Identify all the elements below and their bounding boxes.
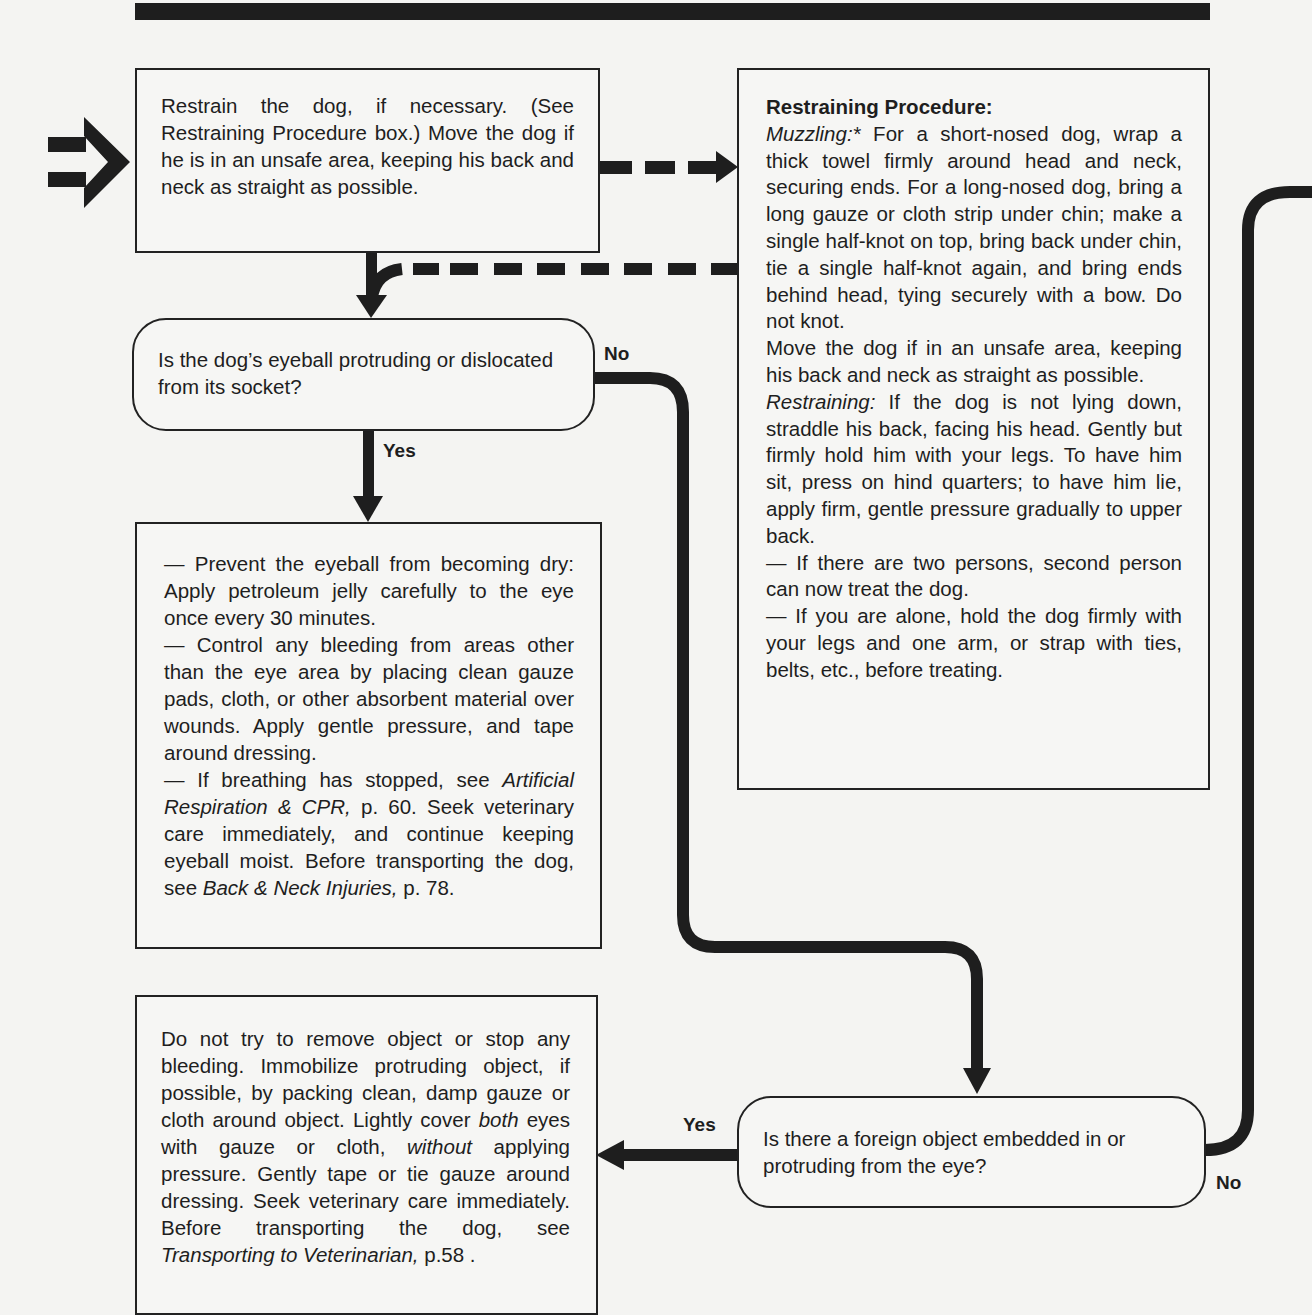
treatment-item-2: — Control any bleeding from areas other … — [164, 631, 574, 766]
restrain-step-box: Restrain the dog, if necessary. (See Res… — [135, 68, 600, 253]
muzzling-label: Muzzling:* — [766, 122, 861, 145]
transporting-reference: Transporting to Veterinarian, — [161, 1243, 419, 1266]
eyeball-yes-label: Yes — [383, 440, 416, 462]
dashed-return-from-procedure — [372, 263, 739, 298]
two-persons-text: — If there are two persons, second perso… — [766, 550, 1182, 604]
object-treatment-text: Do not try to remove object or stop any … — [161, 1025, 570, 1268]
muzzling-text: For a short-nosed dog, wrap a thick towe… — [766, 122, 1182, 333]
entry-arrow-icon — [48, 117, 130, 208]
foreign-object-question-text: Is there a foreign object embedded in or… — [763, 1125, 1180, 1179]
move-dog-text: Move the dog if in an unsafe area, keepi… — [766, 335, 1182, 389]
eyeball-no-label: No — [604, 343, 629, 365]
foreign-object-question-decision: Is there a foreign object embedded in or… — [737, 1096, 1206, 1208]
object-no-label: No — [1216, 1172, 1241, 1194]
dashed-arrow-to-procedure — [600, 151, 738, 183]
eyeball-question-decision: Is the dog’s eyeball protruding or dislo… — [132, 318, 595, 431]
restraining-text: If the dog is not lying down, straddle h… — [766, 390, 1182, 547]
restraining-label: Restraining: — [766, 390, 875, 413]
restraining-procedure-box: Restraining Procedure: Muzzling:* For a … — [737, 68, 1210, 790]
treatment-item-1: — Prevent the eyeball from becoming dry:… — [164, 550, 574, 631]
restrain-step-text: Restrain the dog, if necessary. (See Res… — [161, 92, 574, 200]
object-yes-label: Yes — [683, 1114, 716, 1136]
eyeball-treatment-box: — Prevent the eyeball from becoming dry:… — [135, 522, 602, 949]
treatment-item-3: — If breathing has stopped, see Artifici… — [164, 766, 574, 901]
procedure-title: Restraining Procedure: — [766, 94, 1182, 121]
back-neck-reference: Back & Neck Injuries, — [203, 876, 398, 899]
alone-text: — If you are alone, hold the dog firmly … — [766, 603, 1182, 683]
eyeball-question-text: Is the dog’s eyeball protruding or dislo… — [158, 346, 569, 400]
object-treatment-box: Do not try to remove object or stop any … — [135, 995, 598, 1315]
